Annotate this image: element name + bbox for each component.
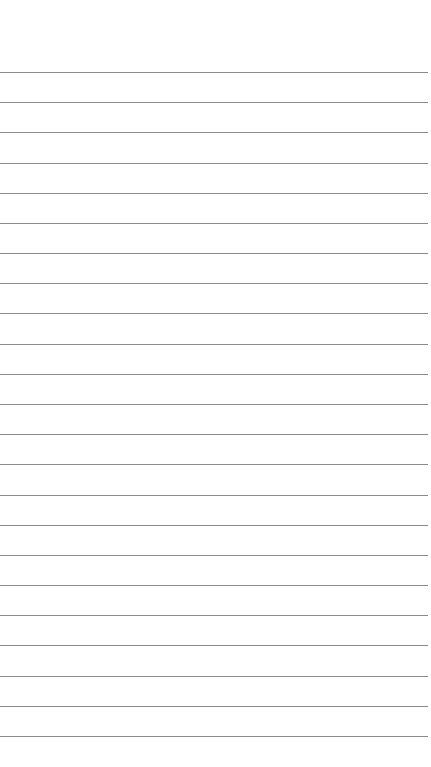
ruled-line bbox=[0, 72, 428, 73]
ruled-line bbox=[0, 615, 428, 616]
ruled-line bbox=[0, 585, 428, 586]
ruled-line bbox=[0, 193, 428, 194]
ruled-line bbox=[0, 223, 428, 224]
ruled-line bbox=[0, 132, 428, 133]
lined-paper bbox=[0, 0, 431, 767]
ruled-line bbox=[0, 374, 428, 375]
ruled-line bbox=[0, 283, 428, 284]
ruled-line bbox=[0, 464, 428, 465]
ruled-line bbox=[0, 495, 428, 496]
ruled-line bbox=[0, 163, 428, 164]
ruled-line bbox=[0, 525, 428, 526]
ruled-line bbox=[0, 253, 428, 254]
ruled-line bbox=[0, 102, 428, 103]
ruled-line bbox=[0, 676, 428, 677]
ruled-line bbox=[0, 645, 428, 646]
ruled-line bbox=[0, 404, 428, 405]
ruled-line bbox=[0, 434, 428, 435]
ruled-line bbox=[0, 344, 428, 345]
ruled-line bbox=[0, 736, 428, 737]
ruled-line bbox=[0, 706, 428, 707]
ruled-line bbox=[0, 555, 428, 556]
ruled-line bbox=[0, 313, 428, 314]
